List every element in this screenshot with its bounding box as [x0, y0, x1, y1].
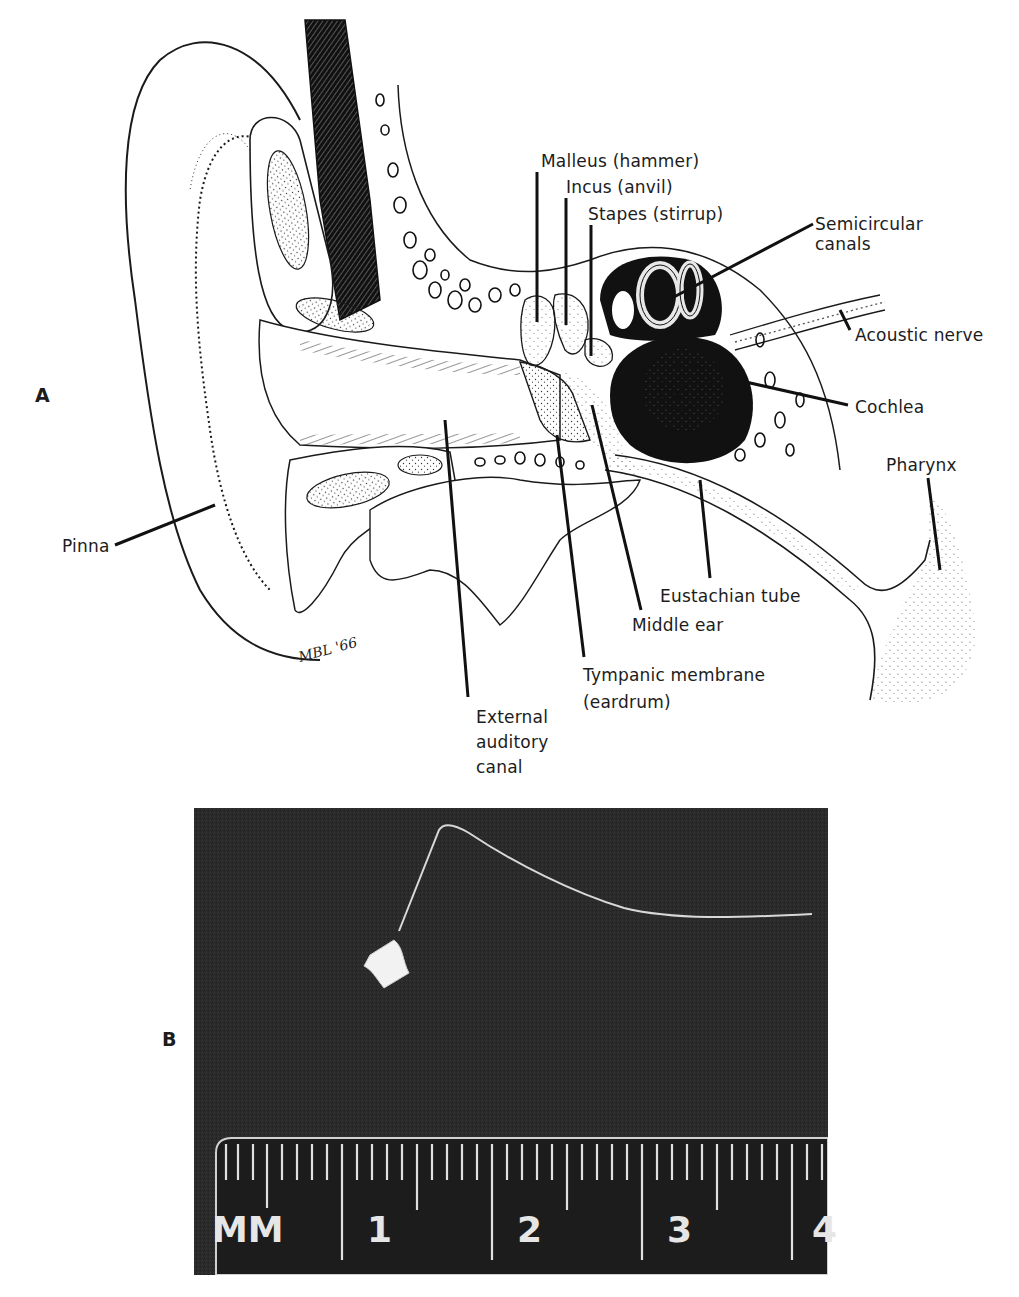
label-malleus: Malleus (hammer)	[541, 150, 699, 172]
prosthesis-photo-content	[194, 808, 828, 1275]
millimeter-ruler	[216, 1138, 828, 1275]
label-tympanic-line1: Tympanic membrane	[583, 664, 765, 686]
semicircular-canals-shape	[600, 256, 722, 340]
prosthesis-photo	[194, 808, 828, 1275]
ruler-number-2: 2	[517, 1210, 542, 1250]
label-external-canal-line1: External	[476, 706, 548, 728]
label-stapes: Stapes (stirrup)	[588, 203, 723, 225]
label-pharynx: Pharynx	[886, 454, 957, 476]
label-semicircular-line1: Semicircular	[815, 213, 923, 235]
label-cochlea: Cochlea	[855, 396, 924, 418]
label-pinna: Pinna	[62, 535, 110, 557]
ruler-unit-label: MM	[212, 1210, 284, 1250]
label-acoustic-nerve: Acoustic nerve	[855, 324, 983, 346]
ruler-number-3: 3	[667, 1210, 692, 1250]
ruler-number-4: 4	[812, 1210, 837, 1250]
panel-letter-a: A	[35, 384, 50, 406]
label-external-canal-line3: canal	[476, 756, 523, 778]
label-tympanic-line2: (eardrum)	[583, 691, 671, 713]
label-eustachian-tube: Eustachian tube	[660, 585, 801, 607]
external-auditory-canal	[259, 320, 560, 448]
label-semicircular-line2: canals	[815, 233, 871, 255]
ruler-number-1: 1	[367, 1210, 392, 1250]
label-external-canal-line2: auditory	[476, 731, 548, 753]
panel-letter-b: B	[162, 1028, 176, 1050]
pharynx-shape	[870, 490, 976, 704]
label-middle-ear: Middle ear	[632, 614, 723, 636]
soft-tissue-mass	[370, 477, 640, 625]
label-incus: Incus (anvil)	[566, 176, 673, 198]
artist-signature: MBL '66	[296, 634, 359, 665]
cochlea-shape	[610, 337, 753, 464]
ear-anatomy-figure: MBL '66 A Malleus (hammer) Incus (anvil)…	[0, 0, 1019, 1297]
